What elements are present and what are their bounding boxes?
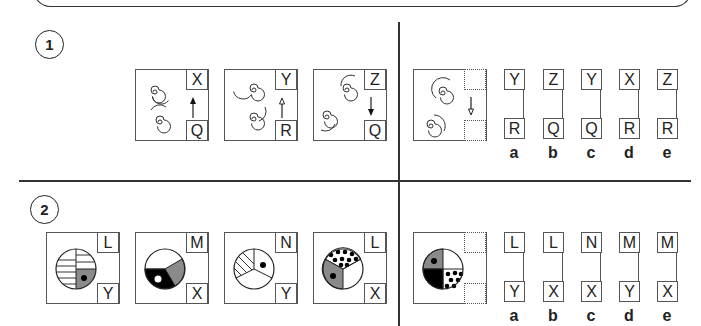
q1-option-d[interactable]: X R: [619, 69, 639, 139]
q2-figure-2: M X: [135, 232, 209, 304]
option-bottom-letter: Q: [581, 118, 602, 139]
q1-option-a[interactable]: Y R: [504, 69, 524, 139]
q1-option-d-label: d: [619, 144, 639, 162]
option-bottom-letter: R: [504, 118, 525, 139]
option-bottom-letter: R: [619, 118, 640, 139]
q1-fig2-bottom-letter: R: [275, 120, 297, 141]
question-number-label: 2: [40, 201, 48, 218]
horizontal-divider: [19, 180, 691, 182]
q1-figure-2: Y R: [224, 69, 298, 141]
option-top-letter: M: [619, 232, 640, 253]
q2-option-a-label: a: [504, 307, 524, 325]
top-frame: [34, 0, 691, 7]
q1-option-b-label: b: [543, 144, 563, 162]
option-top-letter: Z: [657, 69, 678, 90]
option-bottom-letter: X: [581, 281, 602, 302]
option-top-letter: N: [581, 232, 602, 253]
q1-fig3-bottom-letter: Q: [364, 120, 386, 141]
q2-option-c-label: c: [581, 307, 601, 325]
q1-option-e-label: e: [657, 144, 677, 162]
vertical-divider: [398, 22, 400, 326]
question-number-label: 1: [45, 36, 53, 53]
option-bottom-letter: X: [543, 281, 564, 302]
option-bottom-letter: X: [657, 281, 678, 302]
option-bottom-letter: Y: [619, 281, 640, 302]
q2-option-a[interactable]: L Y: [504, 232, 524, 302]
question-number-1: 1: [35, 30, 64, 59]
option-top-letter: X: [619, 69, 640, 90]
q2-option-b-label: b: [543, 307, 563, 325]
option-top-letter: L: [504, 232, 525, 253]
option-bottom-letter: R: [657, 118, 678, 139]
q2-fig2-bottom-letter: X: [186, 283, 208, 304]
q2-figure-3: N Y: [224, 232, 298, 304]
q1-option-b[interactable]: Z Q: [543, 69, 563, 139]
q2-question-figure: [413, 232, 487, 304]
q2-option-e-label: e: [657, 307, 677, 325]
option-top-letter: Y: [504, 69, 525, 90]
q1-option-c[interactable]: Y Q: [581, 69, 601, 139]
option-top-letter: M: [657, 232, 678, 253]
q1-question-figure: [413, 69, 487, 141]
q2-fig1-top-letter: L: [97, 232, 119, 253]
q2-figure-4: L X: [313, 232, 387, 304]
q1-option-c-label: c: [581, 144, 601, 162]
option-top-letter: L: [543, 232, 564, 253]
q2-figure-1: L Y: [46, 232, 120, 304]
q2-fig1-bottom-letter: Y: [97, 283, 119, 304]
q1-option-a-label: a: [504, 144, 524, 162]
q2-fig4-bottom-letter: X: [364, 283, 386, 304]
q1-question-bottom-blank: [464, 120, 486, 141]
option-bottom-letter: Q: [543, 118, 564, 139]
q1-question-top-blank: [464, 69, 486, 90]
q1-fig2-top-letter: Y: [275, 69, 297, 90]
q2-option-e[interactable]: M X: [657, 232, 677, 302]
q2-option-d[interactable]: M Y: [619, 232, 639, 302]
q1-fig1-top-letter: X: [186, 69, 208, 90]
q2-fig2-top-letter: M: [186, 232, 208, 253]
q1-fig1-bottom-letter: Q: [186, 120, 208, 141]
q2-question-bottom-blank: [464, 283, 486, 304]
q2-fig4-top-letter: L: [364, 232, 386, 253]
q1-fig3-top-letter: Z: [364, 69, 386, 90]
q2-fig3-bottom-letter: Y: [275, 283, 297, 304]
q2-option-b[interactable]: L X: [543, 232, 563, 302]
option-top-letter: Z: [543, 69, 564, 90]
q2-option-d-label: d: [619, 307, 639, 325]
q1-option-e[interactable]: Z R: [657, 69, 677, 139]
question-number-2: 2: [30, 195, 59, 224]
option-bottom-letter: Y: [504, 281, 525, 302]
q1-figure-1: X Q: [135, 69, 209, 141]
q1-figure-3: Z Q: [313, 69, 387, 141]
q2-question-top-blank: [464, 232, 486, 253]
q2-option-c[interactable]: N X: [581, 232, 601, 302]
q2-fig3-top-letter: N: [275, 232, 297, 253]
option-top-letter: Y: [581, 69, 602, 90]
